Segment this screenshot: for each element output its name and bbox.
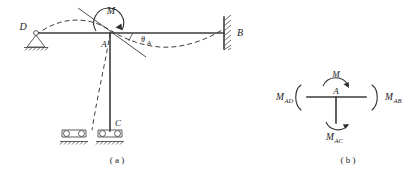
- caption-b: ( b ): [341, 155, 356, 165]
- moment-arc-right: [372, 85, 377, 110]
- panel-b: A M M AD M AB M AC ( b ): [275, 69, 401, 165]
- rotation-angle-arc: [129, 33, 133, 41]
- figure-page: M A θ A D: [0, 0, 412, 178]
- moment-subscript-AD: AD: [284, 97, 294, 104]
- support-label-B: B: [237, 27, 243, 38]
- rotation-angle-label: θ: [141, 35, 145, 44]
- panel-b-applied-moment-label: M: [331, 69, 340, 79]
- roller-support-C: [96, 130, 124, 145]
- engineering-figure: M A θ A D: [0, 0, 412, 178]
- support-label-D: D: [18, 21, 27, 32]
- joint-label-A: A: [100, 39, 107, 49]
- panel-a: M A θ A D: [18, 5, 243, 165]
- caption-a: ( a ): [110, 155, 125, 165]
- moment-label-AC: M: [325, 132, 335, 142]
- roller-support-left: [60, 130, 88, 145]
- moment-label-AD: M: [275, 92, 285, 102]
- rotation-angle-subscript: A: [146, 39, 151, 46]
- moment-arc-left: [296, 85, 301, 110]
- moment-arc-bottom: [326, 122, 349, 130]
- moment-subscript-AB: AB: [393, 97, 402, 104]
- moment-label-AB: M: [384, 92, 394, 102]
- panel-b-joint-label-A: A: [332, 86, 339, 96]
- column-base-label-C: C: [115, 118, 122, 128]
- fixed-support-B: [224, 15, 231, 50]
- moment-subscript-AC: AC: [334, 137, 344, 144]
- applied-moment-label: M: [106, 5, 116, 16]
